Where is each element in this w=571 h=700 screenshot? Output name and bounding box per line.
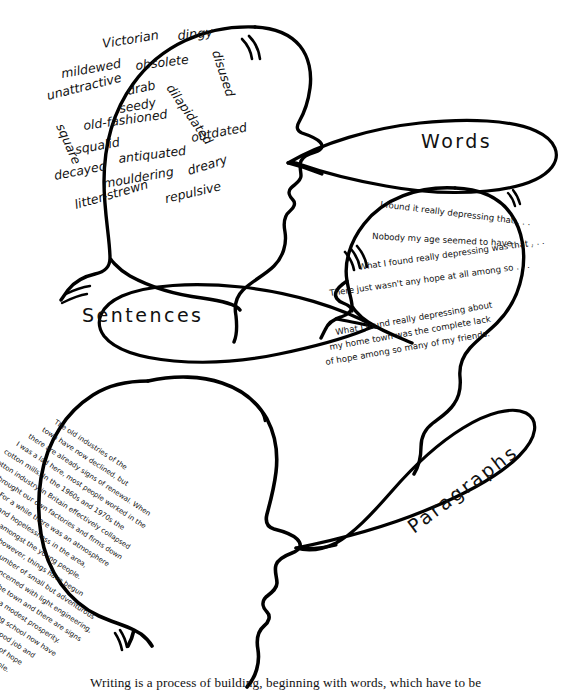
word-item: obsolete [135, 52, 190, 73]
word-item: dreary [185, 151, 229, 177]
word-item: antiquated [118, 143, 187, 166]
word-item: squalid [74, 134, 121, 157]
word-item: dingy [177, 24, 214, 43]
word-item: disused [209, 48, 238, 98]
sentence-line: I found it really depressing that . . . [380, 199, 531, 227]
paragraph-block: The old industries of the town have now … [0, 400, 178, 700]
label-words: Words [421, 130, 492, 152]
word-item: repulsive [163, 178, 222, 206]
label-paragraphs: Paragraphs [403, 440, 522, 537]
label-sentences: Sentences [82, 304, 204, 326]
word-item: Victorian [101, 27, 160, 51]
text-layer: Victorian dingy obsolete disused mildewe… [0, 0, 571, 700]
figure-canvas: Victorian dingy obsolete disused mildewe… [0, 0, 571, 700]
word-cloud-words: Victorian dingy obsolete disused mildewe… [45, 24, 248, 212]
sentence-list: I found it really depressing that . . . … [325, 199, 545, 367]
figure-caption: Writing is a process of building, beginn… [0, 675, 571, 691]
